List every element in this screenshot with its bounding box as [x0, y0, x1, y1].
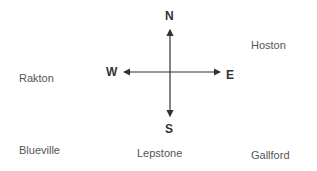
town-hoston: Hoston	[251, 39, 286, 51]
town-rakton: Rakton	[19, 72, 54, 84]
town-lepstone: Lepstone	[137, 147, 182, 159]
south-label: S	[165, 122, 173, 136]
north-label: N	[165, 9, 174, 23]
town-blueville: Blueville	[19, 144, 60, 156]
town-gallford: Gallford	[251, 149, 290, 161]
east-label: E	[226, 68, 234, 82]
west-label: W	[106, 65, 117, 79]
